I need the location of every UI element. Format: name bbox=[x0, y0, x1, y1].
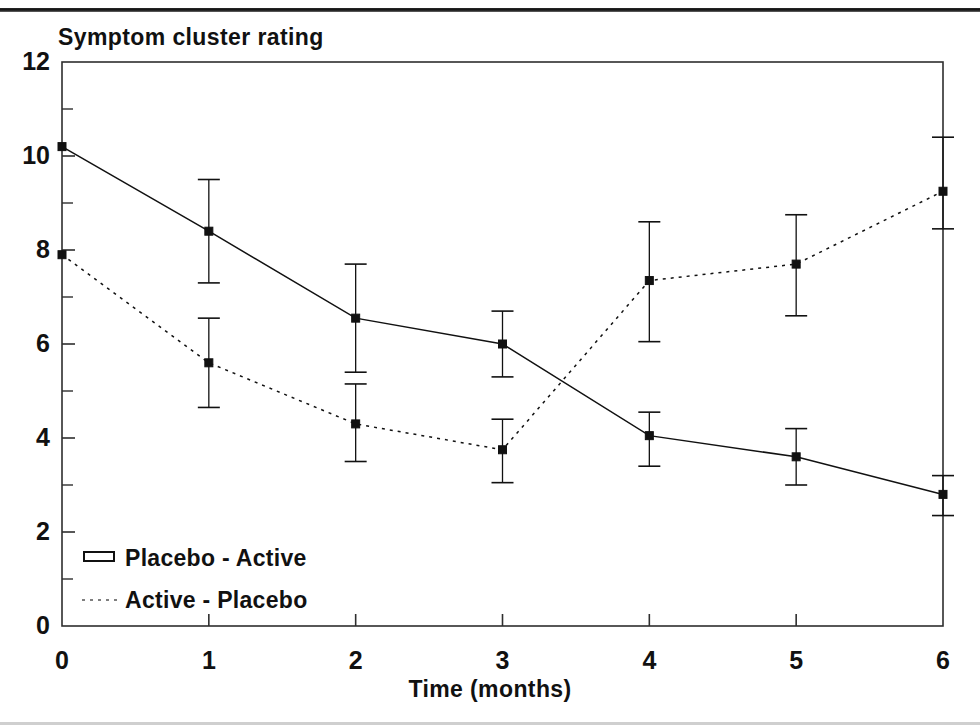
series-active-placebo-marker bbox=[499, 446, 507, 454]
series-placebo-active-marker bbox=[645, 432, 653, 440]
legend-key-solid-bar bbox=[84, 552, 114, 561]
series-placebo-active-marker bbox=[499, 340, 507, 348]
series-placebo-active-marker bbox=[205, 227, 213, 235]
series-active-placebo-marker bbox=[792, 260, 800, 268]
series-active-placebo-marker bbox=[645, 277, 653, 285]
series-active-placebo-marker bbox=[939, 187, 947, 195]
plot-canvas bbox=[0, 0, 980, 727]
series-placebo-active-marker bbox=[58, 143, 66, 151]
series-placebo-active-marker bbox=[939, 490, 947, 498]
series-placebo-active-marker bbox=[352, 314, 360, 322]
chart-page: Symptom cluster rating 0 2 4 6 8 10 12 0… bbox=[0, 0, 980, 727]
series-placebo-active-marker bbox=[792, 453, 800, 461]
series-active-placebo-marker bbox=[205, 359, 213, 367]
series-active-placebo-marker bbox=[352, 420, 360, 428]
series-active-placebo-marker bbox=[58, 251, 66, 259]
